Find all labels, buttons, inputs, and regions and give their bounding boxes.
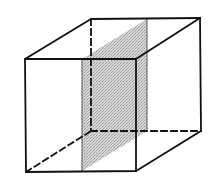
back-top-edge <box>91 18 200 19</box>
back-right-edge <box>200 18 201 131</box>
bottom-right-depth-edge <box>136 131 201 171</box>
top-left-depth-edge <box>25 19 91 59</box>
hidden-bottom-depth-edge <box>26 131 91 172</box>
cube-diagram <box>0 0 217 177</box>
